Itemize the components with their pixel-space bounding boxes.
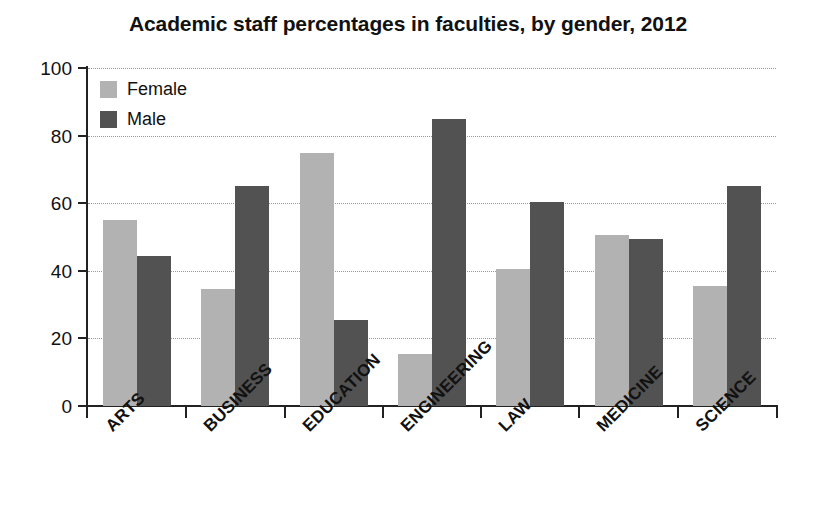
legend-item-female: Female	[100, 76, 187, 102]
bar-science-female	[693, 286, 727, 406]
bar-arts-female	[103, 220, 137, 406]
bar-education-female	[300, 153, 334, 407]
chart-legend: FemaleMale	[100, 76, 187, 136]
x-tick-mark-5	[578, 406, 580, 418]
x-tick-mark-3	[382, 406, 384, 418]
y-tick-label-60: 60	[26, 194, 72, 213]
x-tick-mark-6	[677, 406, 679, 418]
legend-swatch-male	[100, 111, 117, 128]
x-axis-end-cap-left	[86, 406, 88, 418]
x-axis-end-cap-right	[776, 406, 778, 418]
bar-law-male	[530, 202, 564, 406]
y-tick-label-100: 100	[26, 59, 72, 78]
y-tick-label-80: 80	[26, 127, 72, 146]
bar-law-female	[496, 269, 530, 406]
x-tick-mark-2	[284, 406, 286, 418]
x-tick-mark-1	[185, 406, 187, 418]
y-tick-mark-100	[78, 67, 87, 69]
y-tick-label-40: 40	[26, 262, 72, 281]
y-tick-mark-60	[78, 202, 87, 204]
bar-chart: Academic staff percentages in faculties,…	[0, 0, 816, 523]
y-tick-mark-40	[78, 270, 87, 272]
y-tick-mark-0	[78, 405, 87, 407]
gridline-100	[88, 68, 776, 69]
bar-business-female	[201, 289, 235, 406]
legend-swatch-female	[100, 81, 117, 98]
legend-item-male: Male	[100, 106, 187, 132]
legend-label-female: Female	[127, 80, 187, 98]
y-axis-tick-labels: 020406080100	[22, 0, 72, 523]
legend-label-male: Male	[127, 110, 166, 128]
bar-medicine-female	[595, 235, 629, 406]
chart-title: Academic staff percentages in faculties,…	[0, 12, 816, 36]
bar-arts-male	[137, 256, 171, 406]
y-tick-label-0: 0	[26, 397, 72, 416]
x-tick-mark-4	[480, 406, 482, 418]
y-tick-mark-80	[78, 135, 87, 137]
y-tick-mark-20	[78, 337, 87, 339]
plot-area	[88, 68, 776, 406]
y-tick-label-20: 20	[26, 329, 72, 348]
